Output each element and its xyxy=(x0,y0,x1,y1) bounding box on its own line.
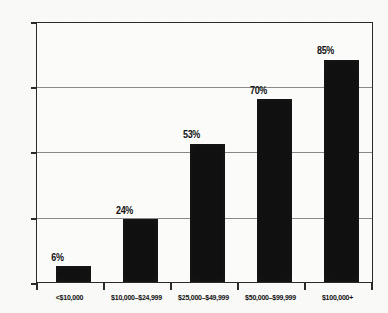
x-label-25000-49999: $25,000–$49,999 xyxy=(172,293,234,302)
x-label-100000-plus: $100,000+ xyxy=(306,293,368,302)
x-separator-1 xyxy=(36,283,38,290)
plot-area xyxy=(36,22,373,283)
x-label-10000-24999: $10,000–$24,999 xyxy=(105,293,167,302)
bar-lt-10000 xyxy=(56,266,91,282)
bar-value-lt-10000: 6% xyxy=(42,252,74,263)
bar-value-25000-49999: 53% xyxy=(176,129,208,140)
bar-25000-49999 xyxy=(190,144,225,282)
x-label-lt-10000: <$10,000 xyxy=(38,293,100,302)
x-separator-5 xyxy=(304,283,306,290)
x-separator-2 xyxy=(103,283,105,290)
bar-chart: 100% 75% 50% 25% 0% 6% 24% 53% 70% 85% xyxy=(0,0,388,313)
gridline-75 xyxy=(37,87,372,88)
bar-value-50000-99999: 70% xyxy=(243,85,275,96)
x-label-50000-99999: $50,000–$99,999 xyxy=(239,293,301,302)
x-separator-6 xyxy=(371,283,373,290)
bar-value-10000-24999: 24% xyxy=(109,205,141,216)
x-separator-4 xyxy=(237,283,239,290)
bar-10000-24999 xyxy=(123,219,158,282)
bar-value-100000-plus: 85% xyxy=(310,45,342,56)
bar-50000-99999 xyxy=(257,99,292,282)
x-separator-3 xyxy=(170,283,172,290)
bar-100000-plus xyxy=(324,60,359,282)
